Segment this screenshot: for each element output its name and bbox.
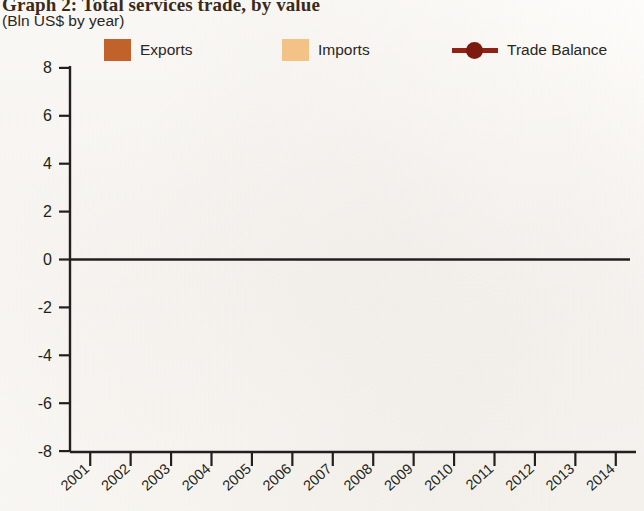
x-tick-label: 2010	[421, 460, 456, 493]
y-tick-label: -6	[38, 395, 52, 412]
y-axis: 86420-2-4-6-8	[38, 59, 70, 459]
y-tick-label: -2	[38, 299, 52, 316]
x-tick-label: 2001	[58, 460, 93, 493]
y-tick-label: 0	[43, 251, 52, 268]
x-axis-ticks	[90, 452, 616, 466]
y-axis-ticks	[59, 68, 70, 451]
x-tick-label: 2013	[543, 460, 578, 493]
y-tick-label: 8	[43, 59, 52, 76]
x-tick-label: 2005	[219, 460, 254, 493]
x-tick-label: 2002	[98, 460, 133, 493]
x-tick-label: 2004	[179, 460, 214, 493]
x-tick-label: 2014	[583, 460, 618, 493]
x-tick-label: 2007	[300, 460, 335, 493]
chart-svg: 86420-2-4-6-8 20012002200320042005200620…	[0, 0, 644, 511]
y-tick-label: 6	[43, 107, 52, 124]
x-tick-label: 2008	[341, 460, 376, 493]
y-tick-label: 2	[43, 203, 52, 220]
x-tick-label: 2006	[260, 460, 295, 493]
y-tick-label: -8	[38, 443, 52, 460]
x-tick-label: 2009	[381, 460, 416, 493]
y-axis-tick-labels: 86420-2-4-6-8	[38, 59, 52, 459]
x-tick-label: 2003	[138, 460, 173, 493]
y-tick-label: -4	[38, 347, 52, 364]
x-tick-label: 2012	[502, 460, 537, 493]
x-axis: 2001200220032004200520062007200820092010…	[58, 452, 636, 494]
y-tick-label: 4	[43, 155, 52, 172]
chart-plot-area: 86420-2-4-6-8 20012002200320042005200620…	[0, 0, 644, 511]
x-tick-label: 2011	[463, 460, 497, 493]
x-axis-tick-labels: 2001200220032004200520062007200820092010…	[58, 460, 618, 493]
